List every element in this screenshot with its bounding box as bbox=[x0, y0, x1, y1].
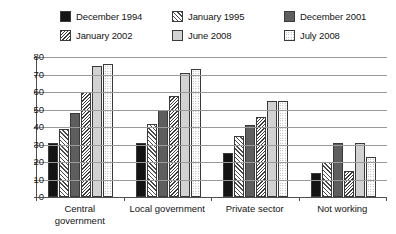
legend-item-label: December 2001 bbox=[300, 11, 366, 22]
y-axis-tick-label: 60 bbox=[18, 87, 44, 96]
y-axis-tick-label: 20 bbox=[18, 157, 44, 166]
y-axis-tick-label: 10 bbox=[18, 175, 44, 184]
x-axis-tick-mark bbox=[211, 197, 212, 201]
bar[interactable] bbox=[344, 171, 354, 197]
x-axis-labels: CentralgovernmentLocal governmentPrivate… bbox=[36, 203, 386, 226]
legend-item[interactable]: June 2008 bbox=[172, 30, 284, 41]
legend-item-label: July 2008 bbox=[300, 30, 340, 41]
legend-swatch-icon bbox=[172, 11, 183, 22]
x-axis-category-label-line: Local government bbox=[124, 203, 212, 215]
y-axis-tick-label: 70 bbox=[18, 70, 44, 79]
x-axis-tick-mark bbox=[36, 197, 37, 201]
legend-swatch-icon bbox=[284, 30, 295, 41]
y-axis-tick-label: 50 bbox=[18, 105, 44, 114]
gridline bbox=[37, 162, 387, 163]
bar[interactable] bbox=[136, 143, 146, 197]
x-axis-category-label-line: government bbox=[36, 215, 124, 227]
legend-item-label: June 2008 bbox=[188, 30, 231, 41]
legend-swatch-icon bbox=[60, 11, 71, 22]
legend-item[interactable]: December 1994 bbox=[60, 11, 172, 22]
x-axis-category-label-line: Private sector bbox=[211, 203, 299, 215]
legend-item[interactable]: January 1995 bbox=[172, 11, 284, 22]
legend-item[interactable]: December 2001 bbox=[284, 11, 394, 22]
bar[interactable] bbox=[158, 110, 168, 198]
legend-swatch-icon bbox=[172, 30, 183, 41]
gridline bbox=[37, 110, 387, 111]
x-axis-category-label: Local government bbox=[124, 203, 212, 226]
x-axis-category-label-line: Not working bbox=[299, 203, 387, 215]
x-axis-category-label: Private sector bbox=[211, 203, 299, 226]
x-axis-category-label: Centralgovernment bbox=[36, 203, 124, 226]
x-axis-tick-mark bbox=[124, 197, 125, 201]
legend-swatch-icon bbox=[284, 11, 295, 22]
bar[interactable] bbox=[48, 143, 58, 197]
legend-item[interactable]: July 2008 bbox=[284, 30, 394, 41]
plot-area: 80706050403020100 bbox=[36, 57, 386, 197]
bar[interactable] bbox=[355, 143, 365, 197]
x-axis-tick-mark bbox=[299, 197, 300, 201]
bar[interactable] bbox=[333, 143, 343, 197]
bar-chart: December 1994January 1995December 2001Ja… bbox=[0, 0, 396, 234]
legend-item-label: January 2002 bbox=[76, 30, 132, 41]
legend-item[interactable]: January 2002 bbox=[60, 30, 172, 41]
x-axis-category-label: Not working bbox=[299, 203, 387, 226]
bar[interactable] bbox=[103, 64, 113, 197]
legend-item-label: January 1995 bbox=[188, 11, 244, 22]
bar[interactable] bbox=[70, 113, 80, 197]
gridline bbox=[37, 92, 387, 93]
bar[interactable] bbox=[147, 124, 157, 198]
bar[interactable] bbox=[92, 66, 102, 197]
legend-swatch-icon bbox=[60, 30, 71, 41]
bar[interactable] bbox=[223, 153, 233, 197]
bar[interactable] bbox=[169, 96, 179, 198]
y-axis-tick-label: 30 bbox=[18, 140, 44, 149]
gridline bbox=[37, 127, 387, 128]
gridline bbox=[37, 75, 387, 76]
gridline bbox=[37, 145, 387, 146]
bar[interactable] bbox=[311, 173, 321, 198]
x-axis-tick-mark bbox=[386, 197, 387, 201]
bar[interactable] bbox=[256, 117, 266, 198]
legend-item-label: December 1994 bbox=[76, 11, 142, 22]
bar[interactable] bbox=[191, 69, 201, 197]
gridline bbox=[37, 180, 387, 181]
chart-legend: December 1994January 1995December 2001Ja… bbox=[60, 7, 390, 45]
x-axis-category-label-line: Central bbox=[36, 203, 124, 215]
y-axis-tick-label: 80 bbox=[18, 52, 44, 61]
gridline bbox=[37, 57, 387, 58]
y-axis-tick-label: 40 bbox=[18, 122, 44, 131]
bar[interactable] bbox=[267, 101, 277, 197]
bar[interactable] bbox=[278, 101, 288, 197]
